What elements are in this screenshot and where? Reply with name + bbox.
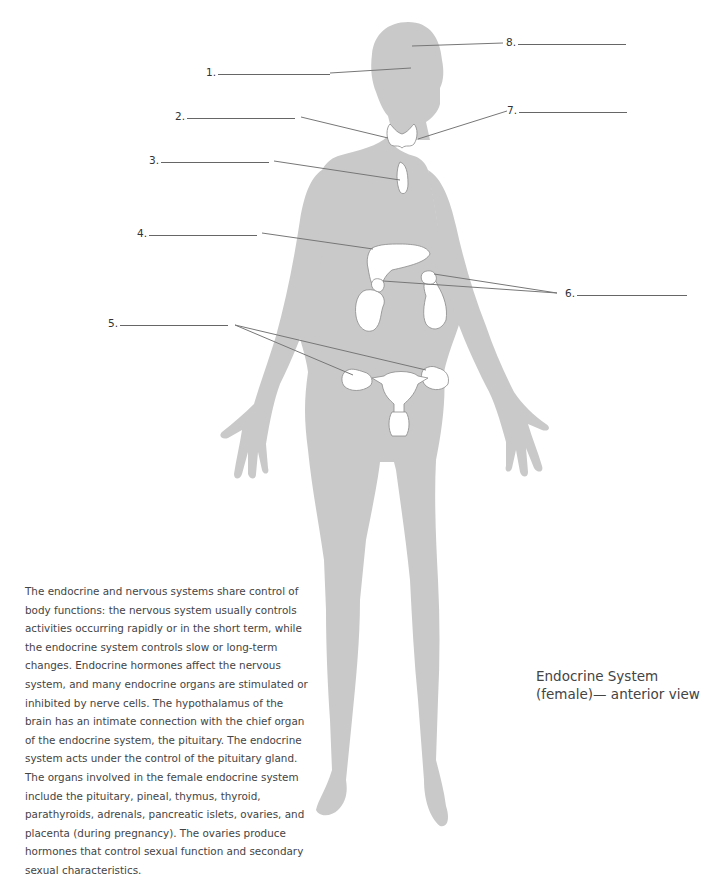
vagina-organ [389, 412, 409, 436]
label-blank-6[interactable] [577, 295, 687, 296]
label-blank-1[interactable] [218, 74, 330, 75]
label-blank-4[interactable] [149, 235, 257, 236]
label-number: 3. [149, 154, 159, 166]
description-text: The endocrine and nervous systems share … [25, 582, 310, 878]
label-6: 6. [565, 287, 687, 299]
label-blank-8[interactable] [518, 44, 626, 45]
label-7: 7. [507, 104, 627, 116]
head-silhouette [371, 22, 443, 140]
label-number: 8. [506, 36, 516, 48]
label-number: 1. [206, 66, 216, 78]
label-blank-3[interactable] [161, 162, 269, 163]
label-3: 3. [149, 154, 269, 166]
label-8: 8. [506, 36, 626, 48]
label-number: 4. [137, 227, 147, 239]
label-number: 7. [507, 104, 517, 116]
label-number: 2. [175, 110, 185, 122]
label-blank-7[interactable] [519, 112, 627, 113]
right-adrenal-organ [421, 271, 436, 285]
figure-caption: Endocrine System (female)— anterior view [536, 667, 706, 703]
label-number: 6. [565, 287, 575, 299]
leader-line-2 [301, 117, 388, 138]
label-blank-5[interactable] [120, 325, 228, 326]
label-4: 4. [137, 227, 257, 239]
label-number: 5. [108, 317, 118, 329]
label-blank-2[interactable] [187, 118, 295, 119]
label-1: 1. [206, 66, 330, 78]
label-5: 5. [108, 317, 228, 329]
label-2: 2. [175, 110, 295, 122]
